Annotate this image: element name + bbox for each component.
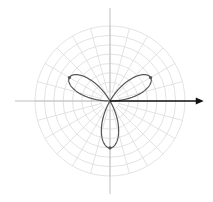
petal-tip-marker: [68, 76, 71, 79]
grid-spoke: [117, 48, 163, 94]
petal-tip-marker: [108, 146, 111, 149]
polar-plot: [0, 0, 213, 202]
grid-spoke: [117, 108, 163, 154]
arrowhead-icon: [196, 98, 204, 105]
axes: [15, 8, 110, 194]
grid-spoke: [57, 108, 103, 154]
grid-spoke: [57, 48, 103, 94]
petal-tip-marker: [149, 76, 152, 79]
